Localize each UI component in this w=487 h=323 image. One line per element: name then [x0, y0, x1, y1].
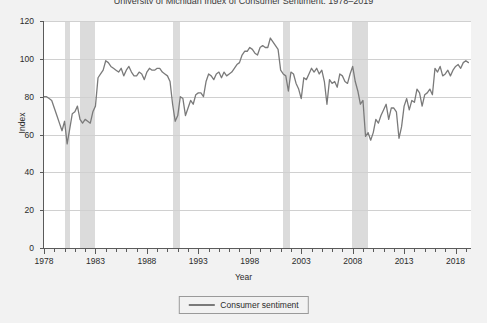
x-tick-2014: [414, 249, 415, 252]
consumer-sentiment-chart: University of Michigan Index of Consumer…: [0, 0, 487, 323]
x-tick-1987: [137, 249, 138, 252]
x-tick-1993: [198, 249, 199, 254]
x-tick-2011: [384, 249, 385, 252]
x-tick-2013: [404, 249, 405, 254]
x-tick-2018: [456, 249, 457, 254]
x-tick-2005: [322, 249, 323, 252]
legend-label-consumer-sentiment: Consumer sentiment: [220, 300, 298, 310]
x-tick-1986: [126, 249, 127, 252]
x-tick-1999: [260, 249, 261, 252]
x-tick-1998: [250, 249, 251, 254]
x-tick-2015: [425, 249, 426, 252]
y-tick-120: [40, 21, 44, 22]
y-tick-label-20: 20: [4, 205, 34, 215]
x-tick-1979: [54, 249, 55, 252]
x-tick-label-1983: 1983: [75, 256, 115, 266]
x-tick-1992: [188, 249, 189, 252]
plot-area: [44, 21, 471, 248]
x-tick-label-2008: 2008: [333, 256, 373, 266]
x-tick-1988: [147, 249, 148, 254]
x-tick-1978: [44, 249, 45, 254]
chart-legend: Consumer sentiment: [178, 296, 308, 314]
x-tick-2017: [445, 249, 446, 252]
y-tick-40: [40, 172, 44, 173]
x-tick-label-2018: 2018: [436, 256, 476, 266]
x-tick-label-1993: 1993: [178, 256, 218, 266]
y-tick-label-40: 40: [4, 167, 34, 177]
series-line-consumer-sentiment: [44, 38, 468, 144]
x-tick-2012: [394, 249, 395, 252]
y-tick-20: [40, 210, 44, 211]
y-axis-label: Index: [17, 93, 27, 153]
x-tick-1980: [65, 249, 66, 252]
x-tick-2000: [270, 249, 271, 252]
chart-title: University of Michigan Index of Consumer…: [0, 0, 487, 4]
legend-swatch-consumer-sentiment: [188, 304, 214, 306]
x-axis-line: [43, 248, 471, 249]
x-tick-1984: [106, 249, 107, 252]
x-tick-2016: [435, 249, 436, 252]
y-tick-60: [40, 135, 44, 136]
x-tick-1983: [95, 249, 96, 254]
y-tick-label-120: 120: [4, 16, 34, 26]
x-tick-2007: [342, 249, 343, 252]
x-tick-1985: [116, 249, 117, 252]
y-tick-label-100: 100: [4, 54, 34, 64]
x-tick-label-1998: 1998: [230, 256, 270, 266]
x-axis-label: Year: [0, 272, 487, 282]
x-tick-label-1978: 1978: [24, 256, 64, 266]
x-tick-1997: [239, 249, 240, 252]
x-tick-2008: [353, 249, 354, 254]
y-tick-label-0: 0: [4, 243, 34, 253]
series-consumer-sentiment: [44, 21, 471, 248]
x-tick-2019: [466, 249, 467, 252]
x-tick-2003: [301, 249, 302, 254]
x-tick-1995: [219, 249, 220, 252]
x-tick-1990: [167, 249, 168, 252]
x-tick-2001: [281, 249, 282, 252]
x-tick-1989: [157, 249, 158, 252]
x-tick-2004: [312, 249, 313, 252]
x-tick-1996: [229, 249, 230, 252]
x-tick-label-1988: 1988: [127, 256, 167, 266]
x-tick-1982: [85, 249, 86, 252]
x-tick-1981: [75, 249, 76, 252]
x-tick-2006: [332, 249, 333, 252]
y-tick-80: [40, 97, 44, 98]
y-tick-100: [40, 59, 44, 60]
x-tick-2002: [291, 249, 292, 252]
x-tick-1994: [209, 249, 210, 252]
x-tick-label-2003: 2003: [281, 256, 321, 266]
x-tick-2010: [373, 249, 374, 252]
x-tick-2009: [363, 249, 364, 252]
x-tick-label-2013: 2013: [384, 256, 424, 266]
x-tick-1991: [178, 249, 179, 252]
